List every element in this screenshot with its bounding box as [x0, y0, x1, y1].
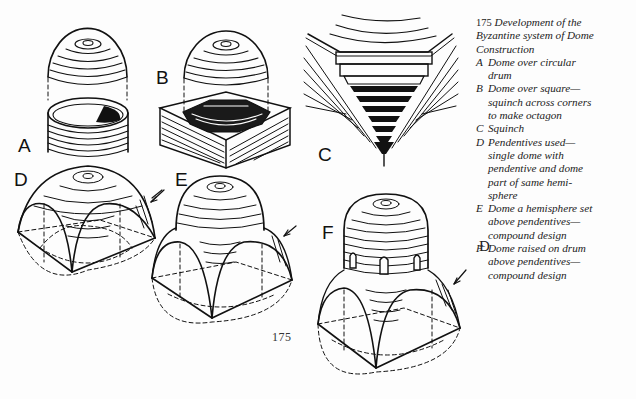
figure-f-drawing: [318, 194, 466, 374]
caption-item-c: CSquinch: [476, 122, 636, 135]
caption-d-line-5: sphere: [488, 189, 517, 201]
figure-c-label: C: [318, 145, 332, 164]
figure-d-label: D: [14, 170, 28, 189]
caption-item-a: ADome over circular drum: [476, 56, 636, 83]
caption-letter-e: E: [476, 202, 488, 215]
figure-b-label: B: [156, 68, 169, 87]
caption-title: 175 Development of the Byzantine system …: [476, 16, 636, 56]
margin-symbol-icon: Ɖ: [479, 238, 490, 255]
caption-item-e: EDome a hemisphere set above pendentives…: [476, 202, 636, 242]
caption-e-line-2: above pendentives—: [488, 215, 580, 227]
caption-f-line-2: above pendentives—: [488, 255, 580, 267]
figure-e-drawing: [152, 176, 296, 323]
figure-f-label: F: [322, 223, 334, 242]
caption-item-b: BDome over square— squinch across corner…: [476, 82, 636, 122]
caption-letter-b: B: [476, 82, 488, 95]
caption-letter-d: D: [476, 136, 488, 149]
caption-d-line-4: part of same hemi-: [488, 176, 572, 188]
book-page: A B C D E F 175 Development of the Byzan…: [0, 0, 636, 399]
figure-caption: 175 Development of the Byzantine system …: [476, 16, 636, 282]
caption-a-line-2: drum: [488, 69, 512, 81]
figure-a-label: A: [18, 136, 31, 155]
caption-title-line-1: Development of the: [495, 16, 582, 28]
figure-b-drawing: [160, 31, 290, 168]
caption-d-line-1: Pendentives used—: [488, 136, 575, 148]
figure-a-drawing: [48, 28, 128, 156]
caption-b-line-3: to make octagon: [488, 109, 562, 121]
caption-e-line-1: Dome a hemisphere set: [488, 202, 592, 214]
page-number: 175: [272, 330, 292, 345]
caption-c-line-1: Squinch: [488, 122, 524, 134]
caption-d-line-2: single dome with: [488, 149, 564, 161]
caption-e-line-3: compound design: [488, 229, 567, 241]
caption-f-line-1: Dome raised on drum: [488, 242, 586, 254]
caption-f-line-3: compound design: [488, 269, 567, 281]
caption-b-line-2: squinch across corners: [488, 96, 591, 108]
figure-number: 175: [476, 17, 492, 28]
caption-letter-c: C: [476, 122, 488, 135]
caption-item-d: DPendentives used— single dome with pend…: [476, 136, 636, 202]
figure-e-label: E: [175, 170, 188, 189]
caption-d-line-3: pendentive and dome: [488, 162, 583, 174]
caption-a-line-1: Dome over circular: [488, 56, 576, 68]
caption-title-line-2: Byzantine system of Dome: [476, 29, 594, 41]
caption-b-line-1: Dome over square—: [488, 82, 580, 94]
caption-item-f: FDome raised on drum above pendentives— …: [476, 242, 636, 282]
caption-letter-a: A: [476, 56, 488, 69]
caption-title-line-3: Construction: [476, 43, 534, 55]
figure-d-drawing: [18, 166, 164, 275]
